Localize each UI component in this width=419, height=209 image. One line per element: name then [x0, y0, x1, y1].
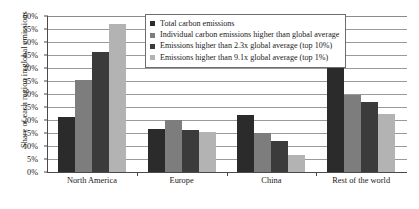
legend-item: Emissions higher than 9.1x global averag…: [150, 52, 339, 63]
legend-swatch: [150, 55, 155, 60]
bar: [237, 115, 254, 172]
x-axis-tick-label: North America: [47, 176, 137, 185]
legend-label: Emissions higher than 2.3x global averag…: [160, 42, 332, 50]
x-axis-tick-label: Europe: [137, 176, 227, 185]
legend-item: Total carbon emissions: [150, 18, 339, 29]
chart-legend: Total carbon emissionsIndividual carbon …: [145, 14, 346, 68]
x-axis-tick-label: Rest of the world: [316, 176, 406, 185]
y-axis-tick-label: 40%: [23, 64, 38, 73]
y-axis-tick-label: 55%: [23, 25, 38, 34]
bar: [148, 129, 165, 172]
y-axis-tick-label: 60%: [23, 12, 38, 21]
bar: [58, 117, 75, 172]
y-axis-tick-label: 25%: [23, 103, 38, 112]
y-axis-tick-label: 20%: [23, 116, 38, 125]
x-axis-tick-labels: North AmericaEuropeChinaRest of the worl…: [47, 176, 406, 185]
y-axis-tick-label: 15%: [23, 129, 38, 138]
x-axis-tick-mark: [227, 172, 228, 176]
y-axis-tick-label: 35%: [23, 77, 38, 86]
bar: [109, 24, 126, 172]
bar: [165, 120, 182, 172]
legend-item: Emissions higher than 2.3x global averag…: [150, 41, 339, 52]
y-axis-tick-labels: 0%5%10%15%20%25%30%35%40%45%50%55%60%: [0, 16, 44, 172]
y-axis-tick-label: 5%: [27, 155, 38, 164]
bar-group: [47, 16, 137, 172]
bar: [344, 95, 361, 172]
y-axis-tick-label: 50%: [23, 38, 38, 47]
bar: [254, 133, 271, 172]
legend-swatch: [150, 44, 155, 49]
bar-chart: Share of each region in global emissions…: [0, 0, 419, 209]
y-axis-tick-label: 0%: [27, 168, 38, 177]
bar: [271, 141, 288, 172]
bar: [75, 80, 92, 172]
bar: [182, 130, 199, 172]
legend-label: Individual carbon emissions higher than …: [160, 31, 339, 39]
bar: [378, 114, 395, 173]
legend-item: Individual carbon emissions higher than …: [150, 29, 339, 40]
bar: [327, 65, 344, 172]
bar: [92, 52, 109, 172]
x-axis-tick-mark: [137, 172, 138, 176]
bar: [361, 102, 378, 172]
legend-swatch: [150, 21, 155, 26]
x-axis-tick-label: China: [227, 176, 317, 185]
legend-label: Total carbon emissions: [160, 20, 235, 28]
x-axis-tick-mark: [316, 172, 317, 176]
y-axis-tick-label: 30%: [23, 90, 38, 99]
legend-label: Emissions higher than 9.1x global averag…: [160, 54, 328, 62]
bar: [199, 132, 216, 172]
y-axis-tick-label: 10%: [23, 142, 38, 151]
y-axis-tick-label: 45%: [23, 51, 38, 60]
legend-swatch: [150, 33, 155, 38]
bar: [288, 155, 305, 172]
